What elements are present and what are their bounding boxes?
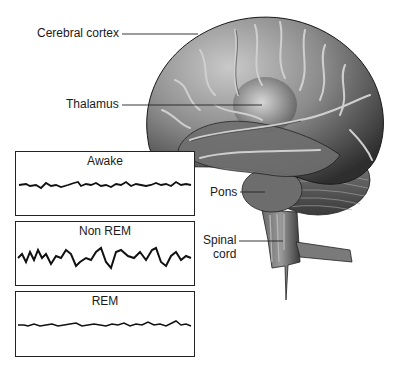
label-cerebral-cortex: Cerebral cortex [37, 27, 119, 40]
label-pons: Pons [210, 186, 237, 199]
label-thalamus: Thalamus [66, 98, 119, 111]
eeg-panel-non-rem: Non REM [15, 221, 195, 286]
spinal-cord [262, 210, 352, 300]
eeg-trace [16, 292, 194, 356]
eeg-trace [16, 152, 194, 215]
label-spinal-cord-2: cord [213, 248, 236, 261]
eeg-panel-awake: Awake [15, 151, 195, 216]
eeg-trace [16, 222, 194, 285]
eeg-panel-rem: REM [15, 291, 195, 357]
label-spinal-cord-1: Spinal [203, 234, 236, 247]
